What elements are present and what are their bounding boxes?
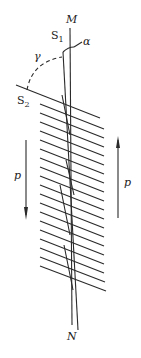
label-s2: S2 (17, 95, 30, 109)
alpha-arc (63, 47, 74, 52)
gamma-arc (27, 57, 62, 90)
arrow-down-head (24, 207, 28, 220)
label-gamma: γ (34, 51, 41, 62)
label-p-left: p (14, 170, 21, 181)
shear-band-diagram (0, 0, 141, 358)
segment (60, 185, 70, 235)
label-p-right: p (124, 177, 131, 188)
label-m: M (66, 14, 77, 25)
alpha-pointer (74, 42, 82, 47)
arrow-up-head (116, 136, 120, 148)
label-s1: S1 (51, 30, 64, 44)
hatching (40, 104, 106, 291)
label-n: N (67, 331, 77, 342)
label-alpha: α (83, 36, 90, 47)
